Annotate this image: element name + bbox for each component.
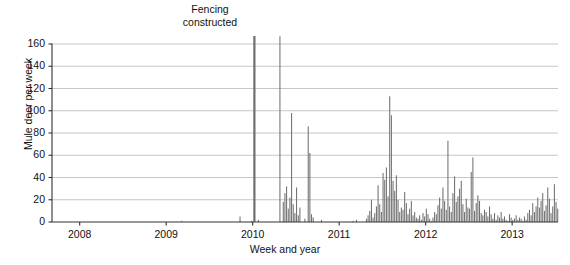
y-tick-label: 40 xyxy=(11,171,45,183)
bar xyxy=(546,205,547,222)
bar xyxy=(294,213,295,222)
x-tick-label: 2008 xyxy=(60,228,100,240)
bar xyxy=(491,214,492,222)
bar xyxy=(452,193,453,222)
bar xyxy=(504,216,505,222)
bar xyxy=(482,215,483,222)
bar xyxy=(551,213,552,222)
bar xyxy=(378,185,379,222)
bar xyxy=(379,204,380,222)
y-tick-label: 140 xyxy=(11,59,45,71)
bar xyxy=(388,196,389,222)
bar xyxy=(408,214,409,222)
bar xyxy=(477,195,478,222)
bar xyxy=(534,212,535,222)
bar xyxy=(541,201,542,222)
x-tick-label: 2012 xyxy=(406,228,446,240)
y-tick-label: 80 xyxy=(11,126,45,138)
bar xyxy=(311,214,312,222)
bar xyxy=(381,212,382,222)
bar xyxy=(449,206,450,222)
bar xyxy=(557,209,558,222)
bar xyxy=(466,199,467,222)
bar xyxy=(542,193,543,222)
bar xyxy=(459,189,460,222)
bar xyxy=(444,201,445,222)
bar xyxy=(552,206,553,222)
bar xyxy=(549,199,550,222)
bar xyxy=(451,212,452,222)
bar xyxy=(386,167,387,222)
bar xyxy=(529,210,530,222)
bar xyxy=(489,206,490,222)
bar xyxy=(426,209,427,222)
bar xyxy=(396,175,397,222)
x-tick-label: 2013 xyxy=(492,228,532,240)
x-tick-label: 2010 xyxy=(233,228,273,240)
bar xyxy=(313,218,314,222)
bar xyxy=(424,216,425,222)
bar xyxy=(279,36,280,222)
bar xyxy=(434,212,435,222)
bar xyxy=(472,157,473,222)
bar xyxy=(462,204,463,222)
bar xyxy=(284,193,285,222)
bar xyxy=(544,211,545,222)
bar xyxy=(416,218,417,222)
bar xyxy=(497,215,498,222)
bar xyxy=(403,210,404,222)
bar xyxy=(486,212,487,222)
bar xyxy=(394,191,395,222)
bar xyxy=(373,218,374,222)
bar xyxy=(299,208,300,222)
bar xyxy=(501,212,502,222)
bar xyxy=(296,188,297,222)
bar xyxy=(309,153,310,222)
y-tick-label: 100 xyxy=(11,104,45,116)
y-tick-label: 60 xyxy=(11,148,45,160)
bar xyxy=(383,173,384,222)
bar xyxy=(527,213,528,222)
bar xyxy=(476,203,477,222)
bar xyxy=(288,209,289,222)
bar xyxy=(439,198,440,222)
bar xyxy=(481,213,482,222)
bar xyxy=(401,208,402,222)
bar xyxy=(391,115,392,222)
bar xyxy=(532,203,533,222)
bar xyxy=(456,202,457,222)
x-tick-label: 2009 xyxy=(146,228,186,240)
bar xyxy=(436,214,437,222)
bar xyxy=(308,126,309,222)
y-tick-label: 120 xyxy=(11,82,45,94)
bar xyxy=(293,204,294,222)
bar xyxy=(499,218,500,222)
bar xyxy=(487,216,488,222)
bar xyxy=(539,208,540,222)
bar xyxy=(298,215,299,222)
bar xyxy=(432,218,433,222)
bar xyxy=(406,203,407,222)
bar xyxy=(469,209,470,222)
bar xyxy=(547,188,548,222)
bar xyxy=(427,214,428,222)
bar xyxy=(536,206,537,222)
bar xyxy=(441,209,442,222)
bar xyxy=(437,205,438,222)
bar xyxy=(384,180,385,222)
bar xyxy=(531,215,532,222)
bar xyxy=(556,202,557,222)
bar xyxy=(484,210,485,222)
bar xyxy=(554,184,555,222)
y-tick-label: 0 xyxy=(11,215,45,227)
bar xyxy=(442,188,443,222)
bar xyxy=(240,216,241,222)
bar xyxy=(419,215,420,222)
bar xyxy=(479,201,480,222)
x-tick-label: 2011 xyxy=(319,228,359,240)
bar xyxy=(411,201,412,222)
bar xyxy=(399,212,400,222)
bar xyxy=(398,200,399,222)
bar xyxy=(467,208,468,222)
bar xyxy=(464,212,465,222)
